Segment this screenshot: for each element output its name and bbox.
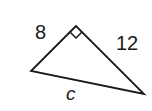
triangle-diagram: 8 12 c <box>0 0 152 111</box>
right-triangle-figure <box>0 0 152 111</box>
leg-label-right: 12 <box>116 33 138 53</box>
hypotenuse-label: c <box>66 84 76 103</box>
right-angle-marker <box>70 32 82 38</box>
leg-label-left: 8 <box>35 22 46 42</box>
